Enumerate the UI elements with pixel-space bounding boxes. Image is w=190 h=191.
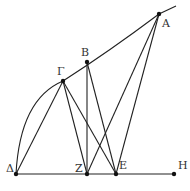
geometric-diagram: ΑΒΓΔΖΕΗ	[0, 0, 190, 191]
label-z: Ζ	[75, 162, 83, 175]
segment-g-d	[16, 81, 63, 174]
point-g	[61, 79, 65, 83]
point-d	[14, 172, 18, 176]
point-a	[157, 12, 161, 16]
label-d: Δ	[6, 162, 14, 175]
label-h: Η	[178, 159, 188, 172]
label-e: Ε	[119, 159, 127, 172]
segment-g-z	[63, 81, 87, 174]
construction-lines	[16, 6, 176, 174]
point-e	[114, 172, 118, 176]
label-a: Α	[161, 17, 171, 30]
point-z	[85, 172, 89, 176]
arc-delta-alpha	[16, 6, 176, 174]
label-g: Γ	[57, 65, 65, 78]
point-b	[85, 60, 89, 64]
point-h	[172, 172, 176, 176]
label-b: Β	[81, 46, 89, 59]
